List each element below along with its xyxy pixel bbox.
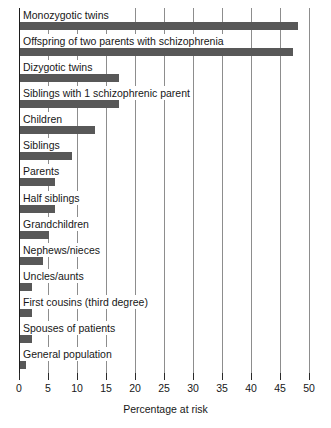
x-tick-35 xyxy=(222,373,223,380)
bar xyxy=(20,152,72,160)
x-tick-label-0: 0 xyxy=(16,382,22,394)
x-tick-label-50: 50 xyxy=(303,382,315,394)
bar-row: First cousins (third degree) xyxy=(19,295,310,321)
x-tick-5 xyxy=(48,373,49,380)
bar xyxy=(20,178,55,186)
bar-row: Grandchildren xyxy=(19,217,310,243)
bar-category-label: Siblings xyxy=(21,138,63,152)
bar-row: Siblings xyxy=(19,138,310,164)
bar-category-label: Grandchildren xyxy=(21,217,92,231)
bar-rows: Monozygotic twinsOffspring of two parent… xyxy=(19,8,310,373)
bar-row: Half siblings xyxy=(19,191,310,217)
bar xyxy=(20,74,119,82)
x-tick-label-45: 45 xyxy=(274,382,286,394)
x-tick-45 xyxy=(280,373,281,380)
bar-row: General population xyxy=(19,347,310,373)
x-tick-0 xyxy=(19,373,20,380)
x-tick-40 xyxy=(251,373,252,380)
bar xyxy=(20,48,293,56)
bar xyxy=(20,100,119,108)
x-tick-label-10: 10 xyxy=(71,382,83,394)
risk-bar-chart: Monozygotic twinsOffspring of two parent… xyxy=(0,0,331,428)
bar-category-label: Monozygotic twins xyxy=(21,8,112,22)
bar-category-label: Nephews/nieces xyxy=(21,243,103,257)
bar-category-label: Half siblings xyxy=(21,191,83,205)
bar xyxy=(20,309,32,317)
bar xyxy=(20,257,43,265)
x-tick-label-40: 40 xyxy=(245,382,257,394)
bar-row: Uncles/aunts xyxy=(19,269,310,295)
bar-category-label: First cousins (third degree) xyxy=(21,295,151,309)
bar xyxy=(20,126,95,134)
x-axis-title: Percentage at risk xyxy=(0,403,331,415)
x-tick-label-25: 25 xyxy=(158,382,170,394)
bar xyxy=(20,231,49,239)
x-tick-15 xyxy=(106,373,107,380)
bar-category-label: Offspring of two parents with schizophre… xyxy=(21,34,227,48)
bar xyxy=(20,205,55,213)
x-tick-20 xyxy=(135,373,136,380)
x-tick-label-30: 30 xyxy=(187,382,199,394)
bar-row: Parents xyxy=(19,164,310,190)
bar xyxy=(20,335,32,343)
bar-category-label: Dizygotic twins xyxy=(21,60,95,74)
bar-row: Spouses of patients xyxy=(19,321,310,347)
x-tick-label-20: 20 xyxy=(129,382,141,394)
plot-area: Monozygotic twinsOffspring of two parent… xyxy=(19,8,310,373)
bar-category-label: Children xyxy=(21,112,65,126)
bar-category-label: Parents xyxy=(21,164,62,178)
bar xyxy=(20,283,32,291)
x-tick-50 xyxy=(309,373,310,380)
x-tick-label-35: 35 xyxy=(216,382,228,394)
bar xyxy=(20,22,298,30)
x-tick-25 xyxy=(164,373,165,380)
bar-row: Nephews/nieces xyxy=(19,243,310,269)
bar-row: Children xyxy=(19,112,310,138)
x-axis: 05101520253035404550 xyxy=(19,373,310,403)
bar-category-label: Siblings with 1 schizophrenic parent xyxy=(21,86,193,100)
x-tick-label-15: 15 xyxy=(100,382,112,394)
bar-row: Offspring of two parents with schizophre… xyxy=(19,34,310,60)
bar-row: Dizygotic twins xyxy=(19,60,310,86)
bar-category-label: General population xyxy=(21,347,115,361)
bar-row: Monozygotic twins xyxy=(19,8,310,34)
bar-category-label: Spouses of patients xyxy=(21,321,118,335)
x-tick-30 xyxy=(193,373,194,380)
x-tick-10 xyxy=(77,373,78,380)
bar xyxy=(20,361,26,369)
bar-row: Siblings with 1 schizophrenic parent xyxy=(19,86,310,112)
x-tick-label-5: 5 xyxy=(45,382,51,394)
bar-category-label: Uncles/aunts xyxy=(21,269,87,283)
